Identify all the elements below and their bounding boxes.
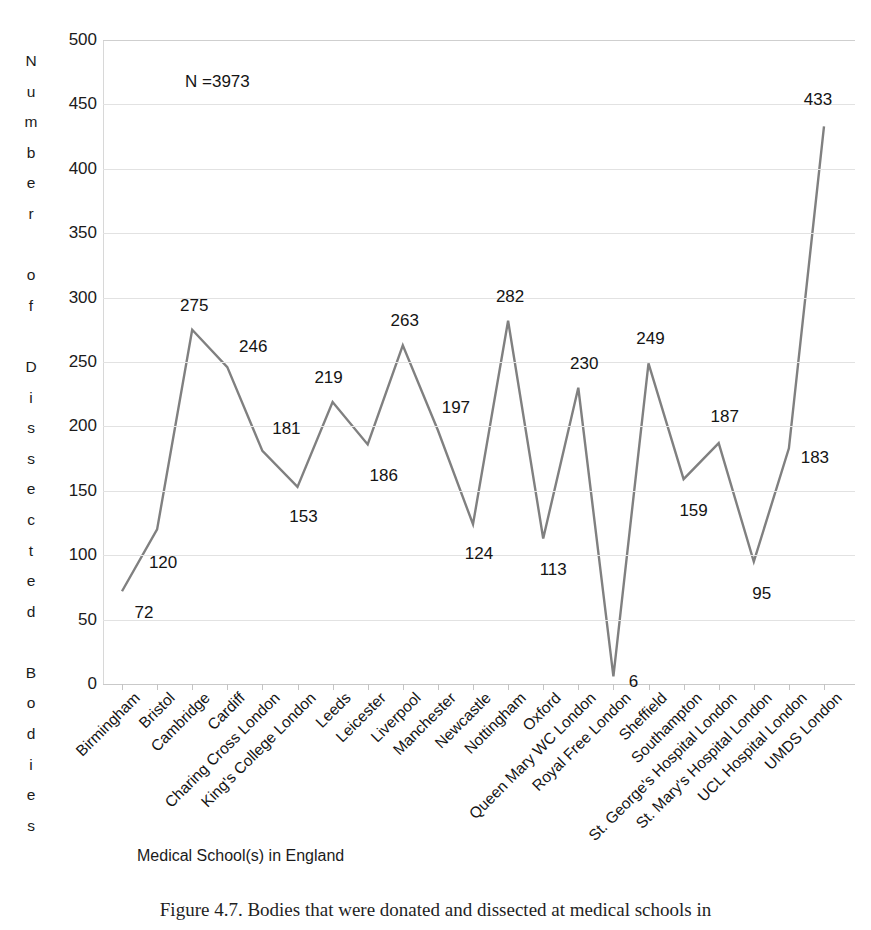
data-value-label: 159 xyxy=(679,501,707,521)
data-value-label: 124 xyxy=(465,544,493,564)
y-tick-label-500: 500 xyxy=(37,30,97,50)
data-value-label: 275 xyxy=(180,296,208,316)
data-value-label: 249 xyxy=(636,329,664,349)
gridline-350 xyxy=(103,233,855,234)
gridline-500 xyxy=(103,40,855,41)
gridline-200 xyxy=(103,426,855,427)
data-value-label: 72 xyxy=(135,603,154,623)
y-tick-label-100: 100 xyxy=(37,545,97,565)
gridline-300 xyxy=(103,298,855,299)
y-tick-label-0: 0 xyxy=(37,674,97,694)
y-tick-label-450: 450 xyxy=(37,94,97,114)
data-value-label: 6 xyxy=(629,672,638,692)
series-polyline xyxy=(122,126,824,676)
y-tick-label-400: 400 xyxy=(37,159,97,179)
data-value-label: 187 xyxy=(711,407,739,427)
y-tick-label-250: 250 xyxy=(37,352,97,372)
data-value-label: 433 xyxy=(804,90,832,110)
x-axis-title: Medical School(s) in England xyxy=(137,847,344,865)
gridline-150 xyxy=(103,491,855,492)
data-value-label: 282 xyxy=(496,287,524,307)
data-value-label: 230 xyxy=(570,354,598,374)
figure-caption: Figure 4.7. Bodies that were donated and… xyxy=(0,899,871,921)
gridline-50 xyxy=(103,620,855,621)
data-value-label: 246 xyxy=(239,337,267,357)
figure-root: N u m b e r o f D i s s e c t e d B o d … xyxy=(0,0,871,930)
data-value-label: 120 xyxy=(149,553,177,573)
y-axis-tick-labels: 500450400350300250200150100500 xyxy=(35,0,97,930)
y-tick-label-300: 300 xyxy=(37,288,97,308)
data-value-label: 197 xyxy=(442,398,470,418)
data-value-label: 219 xyxy=(314,368,342,388)
sample-size-annotation: N =3973 xyxy=(185,72,250,92)
gridline-450 xyxy=(103,104,855,105)
gridline-250 xyxy=(103,362,855,363)
gridline-0 xyxy=(103,684,855,685)
data-value-label: 183 xyxy=(801,448,829,468)
data-value-label: 95 xyxy=(752,584,771,604)
y-tick-label-50: 50 xyxy=(37,610,97,630)
y-tick-label-350: 350 xyxy=(37,223,97,243)
gridline-400 xyxy=(103,169,855,170)
x-axis-category-labels: BirminghamBristolCambridgeCardiffCharing… xyxy=(103,690,871,865)
data-value-label: 153 xyxy=(289,507,317,527)
data-value-label: 186 xyxy=(370,466,398,486)
plot-area xyxy=(103,40,855,684)
data-value-label: 181 xyxy=(272,419,300,439)
data-value-label: 113 xyxy=(540,560,567,580)
y-tick-label-150: 150 xyxy=(37,481,97,501)
y-tick-label-200: 200 xyxy=(37,416,97,436)
data-value-label: 263 xyxy=(391,311,419,331)
